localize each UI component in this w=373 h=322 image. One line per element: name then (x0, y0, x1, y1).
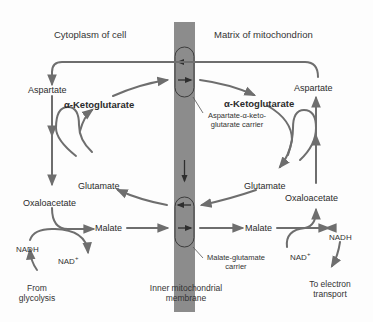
cyto-oxaloacetate-label: Oxaloacetate (23, 199, 76, 208)
matrix-malate-label: Malate (245, 224, 272, 233)
matrix-nad-text: NAD (290, 253, 307, 262)
membrane-label: Inner mitochondrial membrane (136, 284, 236, 304)
to-electron-transport-label: To electron transport (298, 280, 362, 300)
matrix-label: Matrix of mitochondrion (214, 30, 313, 40)
cyto-aspartate-label: Aspartate (28, 86, 67, 95)
matrix-nadh-label: NADH (329, 233, 352, 242)
carrier-to-cyto-glutamate-arrow (118, 190, 167, 205)
carrier2-label: Malate-glutamate carrier (200, 254, 272, 271)
matrix-nad-plus-label: NAD+ (290, 253, 310, 262)
carrier2-label-line2: carrier (200, 263, 272, 272)
matrix-nad-to-nadh-arrow (287, 228, 328, 247)
matrix-oxaloacetate-label: Oxaloacetate (285, 194, 338, 203)
cyto-oxaloacetate-to-malate-arrow (52, 208, 93, 229)
diagram-graphics (0, 0, 373, 322)
carrier1-label-line2: glutarate carrier (202, 121, 272, 130)
matrix-alpha-ketoglutarate-label: α-Ketoglutarate (224, 99, 294, 109)
matrix-malate-to-oxaloacetate-arrow (305, 210, 316, 228)
cyto-glutamate-to-akg-arrow (80, 110, 92, 131)
cyto-alpha-ketoglutarate-label: α-Ketoglutarate (64, 100, 134, 110)
membrane-label-line2: membrane (136, 294, 236, 304)
from-glycolysis-line2: glycolysis (12, 294, 62, 304)
cyto-malate-label: Malate (95, 224, 122, 233)
carrier1-label: Aspartate-α-keto- glutarate carrier (202, 112, 272, 129)
matrix-glutamate-to-carrier-arrow (202, 190, 256, 205)
to-electron-transport-arrow (332, 242, 340, 266)
cyto-nad-text: NAD (58, 257, 75, 266)
cyto-nad-plus-label: NAD+ (58, 257, 78, 266)
cytoplasm-label: Cytoplasm of cell (54, 30, 126, 40)
cyto-nadh-label: NADH (16, 245, 39, 254)
matrix-nad-sup: + (307, 251, 311, 257)
cyto-nad-sup: + (75, 255, 79, 261)
to-electron-transport-line2: transport (298, 290, 362, 300)
carrier-to-matrix-akg-arrow (200, 80, 254, 95)
cyto-akg-to-carrier-arrow (113, 80, 167, 96)
malate-aspartate-shuttle-diagram: Cytoplasm of cell Matrix of mitochondrio… (0, 0, 373, 322)
cyto-glutamate-label: Glutamate (78, 182, 120, 191)
matrix-glutamate-label: Glutamate (244, 182, 286, 191)
from-glycolysis-label: From glycolysis (12, 284, 62, 304)
matrix-aspartate-label: Aspartate (294, 84, 333, 93)
